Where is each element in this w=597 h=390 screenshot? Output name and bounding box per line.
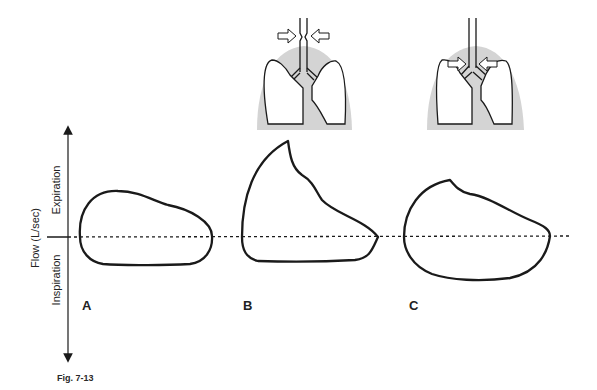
expiration-label: Expiration xyxy=(50,166,62,215)
panel-label-a: A xyxy=(82,298,92,313)
loop-b xyxy=(242,141,378,262)
lungs-illustration-b xyxy=(257,18,352,130)
loop-c xyxy=(404,180,550,280)
compression-arrow-right-icon xyxy=(311,29,329,43)
inspiration-label: Inspiration xyxy=(50,255,62,306)
flow-volume-figure: Flow (L/sec) Expiration Inspiration A B … xyxy=(0,0,597,390)
y-axis-label: Flow (L/sec) xyxy=(29,208,41,268)
zero-flow-baseline xyxy=(68,236,570,237)
flow-axis xyxy=(47,130,68,358)
compression-arrow-left-icon xyxy=(278,29,296,43)
panel-label-c: C xyxy=(409,298,419,313)
lungs-illustration-c xyxy=(427,18,524,130)
figure-caption: Fig. 7-13 xyxy=(57,373,94,383)
loop-a xyxy=(80,191,212,265)
panel-label-b: B xyxy=(243,298,252,313)
